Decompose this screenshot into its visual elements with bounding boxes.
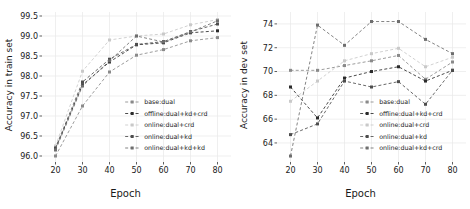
- data-point: [289, 100, 292, 103]
- legend-label: base:dual: [144, 98, 175, 105]
- data-point: [316, 122, 319, 125]
- x-tick-label: 60: [393, 166, 403, 175]
- x-tick-label: 70: [185, 166, 195, 175]
- y-tick-label: 66: [263, 115, 273, 124]
- data-point: [343, 80, 346, 83]
- plot-area-dev: 64666870727420304050607080base:dualoffli…: [251, 6, 470, 188]
- y-tick-label: 99.0: [20, 32, 38, 41]
- data-point: [343, 59, 346, 62]
- data-point: [316, 69, 319, 72]
- data-point: [370, 52, 373, 55]
- data-point: [162, 48, 165, 51]
- x-tick-label: 80: [447, 166, 457, 175]
- legend-label: online:dual+crd: [144, 121, 194, 128]
- legend-label: offline:dual+kd+crd: [379, 110, 442, 117]
- legend-marker: [366, 101, 369, 104]
- legend-marker: [131, 124, 134, 127]
- legend-marker: [131, 147, 134, 150]
- data-point: [343, 44, 346, 47]
- data-point: [54, 149, 57, 152]
- data-point: [81, 81, 84, 84]
- data-point: [216, 29, 219, 32]
- legend-marker: [366, 112, 369, 115]
- legend-marker: [366, 124, 369, 127]
- legend-marker: [131, 112, 134, 115]
- data-point: [135, 43, 138, 46]
- data-point: [108, 39, 111, 42]
- data-point: [289, 69, 292, 72]
- data-point: [397, 47, 400, 50]
- data-point: [81, 70, 84, 73]
- data-point: [81, 105, 84, 108]
- data-point: [451, 61, 454, 64]
- y-tick-label: 97.5: [20, 92, 38, 101]
- data-point: [316, 24, 319, 27]
- y-tick-label: 96.0: [20, 152, 38, 161]
- data-point: [289, 133, 292, 136]
- y-tick-label: 64: [263, 139, 273, 148]
- panel-train-accuracy: Accuracy in train set 96.096.597.097.598…: [0, 0, 235, 209]
- data-point: [162, 33, 165, 36]
- data-point: [343, 77, 346, 80]
- plot-area-train: 96.096.597.097.598.098.599.099.520304050…: [16, 6, 235, 188]
- panel-dev-accuracy: Accuracy in dev set 64666870727420304050…: [235, 0, 470, 209]
- y-tick-label: 68: [263, 91, 273, 100]
- x-tick-label: 50: [131, 166, 141, 175]
- data-point: [397, 65, 400, 68]
- figure-two-panel-line-charts: Accuracy in train set 96.096.597.097.598…: [0, 0, 470, 209]
- x-tick-label: 70: [420, 166, 430, 175]
- y-tick-label: 98.0: [20, 72, 38, 81]
- x-tick-label: 80: [212, 166, 222, 175]
- data-point: [424, 80, 427, 83]
- y-tick-label: 74: [263, 20, 273, 29]
- x-tick-label: 60: [158, 166, 168, 175]
- data-point: [397, 80, 400, 83]
- data-point: [108, 59, 111, 62]
- legend-label: offline:dual+kd+crd: [144, 110, 207, 117]
- legend-label: online:dual+kd+kd: [144, 144, 205, 151]
- legend-label: online:dual+kd+crd: [379, 144, 442, 151]
- y-tick-label: 98.5: [20, 52, 38, 61]
- x-axis-title-dev: Epoch: [251, 188, 470, 199]
- data-point: [424, 38, 427, 41]
- data-point: [424, 103, 427, 106]
- x-tick-label: 40: [104, 166, 114, 175]
- legend-label: online:dual+crd: [379, 121, 429, 128]
- data-point: [424, 65, 427, 68]
- data-point: [289, 86, 292, 89]
- y-axis-title-train: Accuracy in train set: [2, 0, 16, 170]
- data-point: [189, 23, 192, 26]
- y-axis-title-dev: Accuracy in dev set: [237, 0, 251, 170]
- y-tick-label: 99.5: [20, 12, 38, 21]
- data-point: [108, 71, 111, 74]
- data-point: [189, 39, 192, 42]
- legend-marker: [366, 135, 369, 138]
- data-point: [316, 80, 319, 83]
- data-point: [451, 69, 454, 72]
- data-point: [370, 86, 373, 89]
- data-point: [370, 20, 373, 23]
- data-point: [135, 35, 138, 38]
- x-tick-label: 20: [50, 166, 60, 175]
- y-tick-label: 97.0: [20, 112, 38, 121]
- data-point: [451, 52, 454, 55]
- legend-label: online:dual+kd: [379, 133, 427, 140]
- x-tick-label: 40: [339, 166, 349, 175]
- legend-marker: [366, 147, 369, 150]
- data-point: [370, 59, 373, 62]
- data-point: [451, 56, 454, 59]
- data-point: [397, 54, 400, 57]
- data-point: [135, 54, 138, 57]
- data-point: [216, 19, 219, 22]
- x-axis-title-train: Epoch: [16, 188, 235, 199]
- x-tick-label: 30: [312, 166, 322, 175]
- y-tick-label: 96.5: [20, 132, 38, 141]
- chart-svg-dev: 64666870727420304050607080base:dualoffli…: [251, 6, 470, 188]
- chart-svg-train: 96.096.597.097.598.098.599.099.520304050…: [16, 6, 235, 188]
- x-tick-label: 30: [77, 166, 87, 175]
- data-point: [343, 64, 346, 67]
- data-point: [289, 155, 292, 158]
- data-point: [370, 70, 373, 73]
- y-tick-label: 72: [263, 44, 273, 53]
- data-point: [54, 155, 57, 158]
